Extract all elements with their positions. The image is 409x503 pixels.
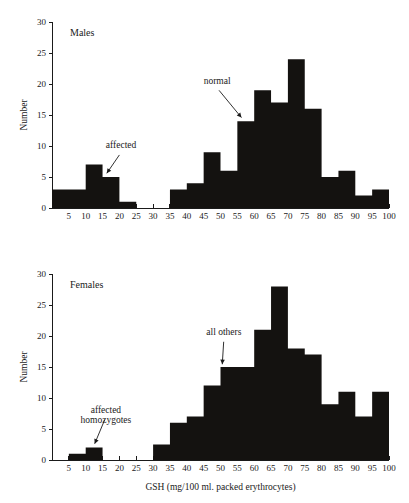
x-axis-tick-label: 90 [351, 211, 361, 221]
y-axis-tick-label: 0 [42, 203, 47, 213]
y-axis-title: Number [19, 351, 29, 383]
x-axis-tick-label: 30 [149, 211, 159, 221]
x-axis-tick-label: 30 [149, 463, 159, 473]
x-axis-tick-label: 85 [334, 211, 344, 221]
x-axis-tick-label: 65 [267, 463, 277, 473]
females-histogram: 0510152025305101520253035404550556065707… [0, 252, 409, 503]
x-axis-tick-label: 85 [334, 463, 344, 473]
y-axis-title: Number [19, 99, 29, 131]
x-axis-tick-label: 40 [182, 211, 192, 221]
y-axis-tick-label: 10 [37, 141, 47, 151]
x-axis-tick-label: 5 [67, 211, 72, 221]
x-axis-tick-label: 10 [81, 211, 91, 221]
annotation-label: homozygotes [81, 415, 132, 425]
y-axis-tick-label: 5 [42, 172, 47, 182]
y-axis-tick-label: 0 [42, 455, 47, 465]
x-axis-tick-label: 5 [67, 463, 72, 473]
x-axis-tick-label: 70 [283, 463, 293, 473]
histogram-bars [69, 286, 389, 460]
y-axis-tick-label: 5 [42, 424, 47, 434]
x-axis-tick-label: 60 [250, 463, 260, 473]
panel-title: Males [70, 27, 95, 38]
x-axis-tick-label: 80 [317, 463, 327, 473]
x-axis-tick-label: 20 [115, 211, 125, 221]
x-axis-tick-label: 95 [368, 211, 378, 221]
males-histogram: 0510152025305101520253035404550556065707… [0, 0, 409, 250]
x-axis-tick-label: 60 [250, 211, 260, 221]
y-axis-tick-label: 20 [37, 79, 47, 89]
x-axis-tick-label: 100 [382, 463, 396, 473]
y-axis-tick-label: 20 [37, 331, 47, 341]
annotation-arrow [219, 90, 241, 117]
x-axis-tick-label: 55 [233, 211, 243, 221]
x-axis-title: GSH (mg/100 ml. packed erythrocytes) [145, 482, 295, 493]
x-axis-tick-label: 65 [267, 211, 277, 221]
annotation-label: all others [206, 327, 241, 337]
chart-panel-males: 0510152025305101520253035404550556065707… [0, 0, 409, 250]
x-axis-tick-label: 95 [368, 463, 378, 473]
x-axis-tick-label: 50 [216, 211, 226, 221]
y-axis-tick-label: 25 [37, 300, 47, 310]
annotation-arrowhead [220, 360, 225, 365]
x-axis-tick-label: 75 [300, 463, 310, 473]
x-axis-tick-label: 55 [233, 463, 243, 473]
annotation-label: normal [204, 76, 231, 86]
x-axis-tick-label: 100 [382, 211, 396, 221]
panel-title: Females [70, 279, 103, 290]
y-axis-tick-label: 30 [37, 17, 47, 27]
x-axis-tick-label: 40 [182, 463, 192, 473]
x-axis-tick-label: 10 [81, 463, 91, 473]
x-axis-tick-label: 45 [199, 211, 209, 221]
x-axis-tick-label: 20 [115, 463, 125, 473]
x-axis-tick-label: 45 [199, 463, 209, 473]
y-axis-tick-label: 25 [37, 48, 47, 58]
y-axis-tick-label: 15 [37, 110, 47, 120]
chart-panel-females: 0510152025305101520253035404550556065707… [0, 252, 409, 503]
x-axis-tick-label: 80 [317, 211, 327, 221]
x-axis-tick-label: 35 [165, 463, 175, 473]
x-axis-tick-label: 15 [98, 211, 108, 221]
annotation-label: affected [91, 405, 122, 415]
x-axis-tick-label: 90 [351, 463, 361, 473]
y-axis-tick-label: 15 [37, 362, 47, 372]
annotation-label: affected [106, 140, 137, 150]
x-axis-tick-label: 70 [283, 211, 293, 221]
x-axis-tick-label: 15 [98, 463, 108, 473]
x-axis-tick-label: 25 [132, 211, 142, 221]
figure-root: 0510152025305101520253035404550556065707… [0, 0, 409, 503]
y-axis-tick-label: 10 [37, 393, 47, 403]
x-axis-tick-label: 50 [216, 463, 226, 473]
x-axis-tick-label: 75 [300, 211, 310, 221]
x-axis-tick-label: 35 [165, 211, 175, 221]
annotation-arrowhead [107, 168, 112, 173]
x-axis-tick-label: 25 [132, 463, 142, 473]
y-axis-tick-label: 30 [37, 269, 47, 279]
